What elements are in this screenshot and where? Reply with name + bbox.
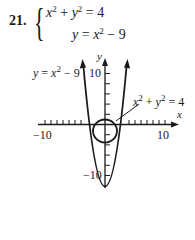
plus: +: [143, 95, 156, 109]
y-tick-label-10: 10: [89, 66, 101, 81]
equals: =: [38, 66, 51, 80]
x-axis-arrow-icon: [171, 122, 179, 128]
y-axis-label: y: [97, 50, 102, 62]
y-tick-label-neg10: −10: [83, 168, 102, 183]
circle-label: x2 + y2 = 4: [133, 93, 184, 110]
y-axis-arrow-icon: [102, 58, 108, 66]
parabola-right-arrow-icon: [124, 59, 130, 69]
x-tick-label-10: 10: [157, 128, 169, 143]
minus-nine: − 9: [61, 66, 80, 80]
parabola-label: y = x2 − 9: [33, 64, 80, 81]
parabola-left-arrow-icon: [80, 59, 86, 69]
x-tick-label-neg10: −10: [33, 128, 52, 143]
equals-four: = 4: [165, 95, 184, 109]
